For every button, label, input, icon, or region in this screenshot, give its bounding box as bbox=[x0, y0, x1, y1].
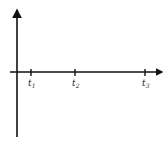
tick-label-1: t1 bbox=[28, 78, 35, 89]
axes-diagram: t1 t2 t3 bbox=[0, 0, 166, 148]
tick-label-2: t2 bbox=[72, 78, 80, 89]
tick-label-3: t3 bbox=[142, 78, 150, 89]
